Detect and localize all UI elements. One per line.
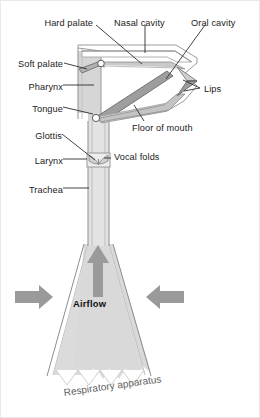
respiratory-apparatus-figure: Hard palate Soft palate Pharynx Tongue G… [0, 0, 260, 418]
label-glottis: Glottis [1, 131, 62, 141]
trachea-group [88, 121, 109, 246]
label-trachea: Trachea [1, 185, 63, 195]
airflow-arrow-right [146, 285, 184, 309]
label-vocal-folds: Vocal folds [114, 152, 160, 162]
label-floor-of-mouth: Floor of mouth [132, 123, 193, 133]
pharynx-cavity [78, 51, 101, 121]
label-hard-palate: Hard palate [1, 18, 93, 28]
pharynx-group [78, 48, 101, 121]
label-oral-cavity: Oral cavity [191, 18, 236, 28]
label-soft-palate: Soft palate [1, 59, 63, 69]
trachea-tube [88, 121, 109, 246]
label-pharynx: Pharynx [1, 82, 63, 92]
larynx-group [87, 153, 110, 167]
tongue-root-hinge [92, 114, 99, 121]
label-tongue: Tongue [1, 104, 63, 114]
label-nasal-cavity: Nasal cavity [114, 18, 165, 28]
soft-palate-hinge [98, 60, 105, 67]
airflow-label: Airflow [73, 298, 106, 309]
label-larynx: Larynx [1, 156, 63, 166]
label-lips: Lips [204, 84, 221, 94]
airflow-arrow-left [15, 285, 53, 309]
